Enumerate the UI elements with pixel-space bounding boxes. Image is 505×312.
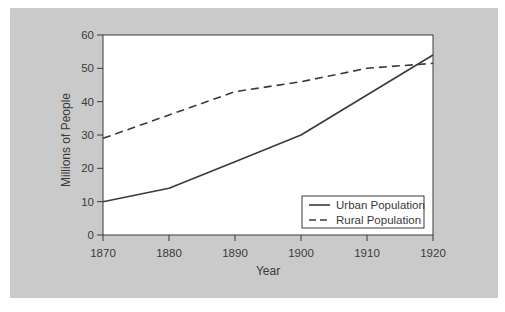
y-tick-label: 10 [81, 196, 94, 208]
y-tick-label: 50 [81, 62, 94, 74]
x-tick-label: 1870 [90, 247, 116, 259]
y-tick-label: 40 [81, 96, 94, 108]
y-axis-title: Millions of People [59, 93, 73, 187]
y-tick-label: 0 [88, 229, 94, 241]
x-tick-label: 1880 [156, 247, 182, 259]
legend: Urban Population Rural Population [302, 196, 425, 228]
line-chart: 0102030405060 187018801890190019101920 M… [0, 0, 505, 312]
x-tick-label: 1890 [222, 247, 248, 259]
figure: 0102030405060 187018801890190019101920 M… [0, 0, 505, 312]
urban-population-legend-label: Urban Population [336, 199, 425, 211]
x-axis-title: Year [256, 264, 280, 278]
y-tick-label: 60 [81, 29, 94, 41]
x-tick-label: 1910 [354, 247, 380, 259]
rural-population-legend-label: Rural Population [336, 214, 421, 226]
x-tick-label: 1900 [288, 247, 314, 259]
y-tick-label: 20 [81, 162, 94, 174]
x-tick-label: 1920 [420, 247, 446, 259]
y-tick-label: 30 [81, 129, 94, 141]
